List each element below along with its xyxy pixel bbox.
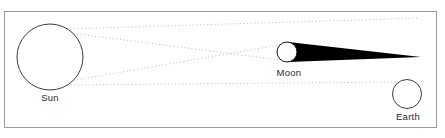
sun-label: Sun [41, 92, 59, 103]
sun-body [17, 24, 83, 90]
earth-label: Earth [396, 111, 420, 122]
moon-label: Moon [277, 67, 302, 78]
earth-body [393, 80, 422, 109]
eclipse-diagram: Sun Moon Earth [0, 0, 445, 138]
eclipse-diagram-canvas: Sun Moon Earth [0, 0, 445, 138]
moon-body [277, 42, 297, 62]
